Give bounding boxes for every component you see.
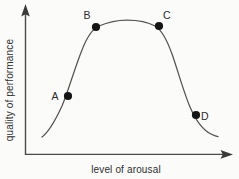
data-point-c — [155, 22, 163, 30]
x-axis-label: level of arousal — [91, 164, 161, 175]
y-axis-label: quality of performance — [4, 39, 15, 142]
data-point-d — [192, 111, 200, 119]
data-point-label-c: C — [163, 9, 171, 21]
data-point-label-a: A — [51, 90, 58, 102]
data-point-a — [64, 92, 72, 100]
chart-canvas: A B C D quality of performance level of … — [0, 0, 239, 179]
data-point-label-b: B — [83, 9, 90, 21]
performance-arousal-figure: A B C D quality of performance level of … — [0, 0, 239, 179]
data-point-label-d: D — [201, 110, 209, 122]
performance-curve — [42, 20, 218, 137]
data-point-b — [92, 23, 100, 31]
